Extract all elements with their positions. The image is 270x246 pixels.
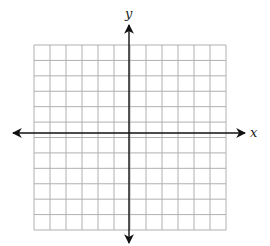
x-axis-label: x <box>250 125 258 140</box>
grid-lines <box>34 45 226 230</box>
y-axis-label: y <box>124 6 133 21</box>
coordinate-plane: x y <box>0 0 270 246</box>
